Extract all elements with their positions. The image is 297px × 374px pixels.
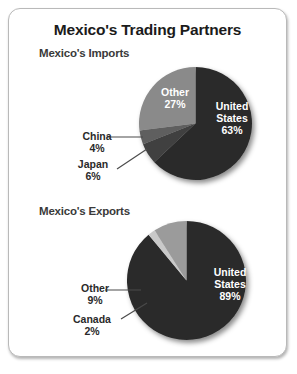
page-title: Mexico's Trading Partners	[9, 21, 286, 39]
imports-slice-other	[139, 67, 195, 131]
imports-subtitle: Mexico's Imports	[39, 47, 129, 59]
exports-pie-chart	[127, 221, 246, 340]
exports-subtitle: Mexico's Exports	[39, 205, 130, 217]
exports-pie-svg	[127, 221, 246, 340]
imports-pie-svg	[139, 67, 252, 180]
chart-card: Mexico's Trading Partners Mexico's Impor…	[8, 8, 287, 357]
imports-label-japan: Japan 6%	[69, 159, 117, 183]
exports-label-canada: Canada 2%	[65, 314, 119, 338]
imports-pie-chart	[139, 67, 252, 180]
imports-label-china: China 4%	[73, 131, 121, 155]
exports-label-other: Other 9%	[71, 283, 119, 307]
